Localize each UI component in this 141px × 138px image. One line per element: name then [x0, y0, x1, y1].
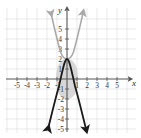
x-tick-label-4: 4: [105, 81, 109, 90]
y-tick-label-5: 5: [58, 25, 62, 34]
x-tick-label-3: 3: [95, 81, 99, 90]
y-tick-label--3: -3: [58, 105, 64, 114]
coordinate-plane: -5 -4 -3 -2 -1 1 2 3 4 5 5 4 3 2 1 -1 -2…: [0, 0, 141, 138]
y-axis-label: y: [57, 5, 62, 15]
x-tick-label--3: -3: [34, 81, 40, 90]
y-tick-label--5: -5: [58, 125, 64, 134]
x-tick-label-2: 2: [85, 81, 89, 90]
y-tick-label-2: 2: [58, 55, 62, 64]
graph-figure: -5 -4 -3 -2 -1 1 2 3 4 5 5 4 3 2 1 -1 -2…: [0, 0, 141, 138]
x-axis-label: x: [131, 78, 136, 88]
x-tick-label--5: -5: [14, 81, 20, 90]
x-tick-label--2: -2: [44, 81, 50, 90]
x-tick-label--4: -4: [24, 81, 30, 90]
x-tick-label-5: 5: [115, 81, 119, 90]
y-tick-label-4: 4: [58, 35, 62, 44]
y-tick-label--4: -4: [58, 115, 64, 124]
y-tick-label--2: -2: [58, 95, 64, 104]
